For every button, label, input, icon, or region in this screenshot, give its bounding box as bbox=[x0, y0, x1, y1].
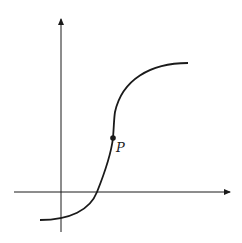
graph-canvas: P bbox=[0, 0, 242, 243]
curve bbox=[40, 63, 188, 220]
point-p-label: P bbox=[115, 140, 125, 155]
point-p bbox=[110, 135, 116, 141]
